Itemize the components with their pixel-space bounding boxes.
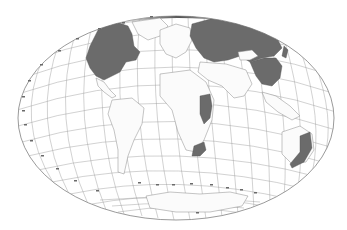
region-eurasia-north [190, 18, 282, 62]
world-map [0, 0, 347, 230]
